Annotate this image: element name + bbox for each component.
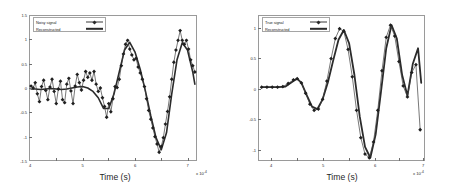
series-marker — [46, 98, 50, 102]
legend-entry-reconstructed: Reconstructed — [36, 26, 103, 32]
series-marker — [80, 88, 84, 92]
ytick-label: 1.5 — [14, 13, 27, 18]
series-marker — [82, 78, 86, 82]
series-marker — [33, 81, 37, 85]
series-marker — [94, 82, 98, 86]
figure-container: 1.5 1 0.5 0 -0.5 -1 -1.5 4 5 6 7 Time (s… — [0, 0, 453, 195]
xtick-label: 7 — [422, 163, 424, 168]
legend-entry-true-signal: True signal — [265, 19, 327, 25]
series-marker — [69, 89, 73, 93]
ytick-label: 0 — [14, 86, 27, 91]
series-marker — [75, 72, 79, 76]
series-marker — [276, 85, 280, 89]
legend-line-marker-sample-icon — [86, 19, 103, 25]
series-marker — [174, 48, 178, 52]
ytick-label: -1 — [14, 134, 27, 139]
xtick-label: 4 — [29, 163, 31, 168]
ytick-mark — [29, 64, 32, 65]
xtick-mark — [161, 158, 162, 161]
legend-right: True signal Reconstructed — [262, 17, 330, 32]
series-marker — [143, 85, 147, 89]
series-marker — [157, 150, 161, 154]
series-marker — [180, 38, 184, 42]
ytick-label: -0.5 — [14, 110, 27, 115]
series-marker — [67, 76, 71, 80]
legend-thick-line-sample-icon — [86, 26, 103, 32]
plot-curves-left — [30, 16, 198, 162]
series-marker — [59, 79, 63, 83]
legend-label: Noisy signal — [36, 20, 84, 25]
xtick-mark — [271, 158, 272, 161]
series-marker — [270, 85, 274, 89]
legend-label: True signal — [265, 20, 308, 25]
series-marker — [96, 90, 100, 94]
series-marker — [84, 70, 88, 74]
ytick-mark — [29, 39, 32, 40]
legend-label: Reconstructed — [265, 27, 308, 32]
xtick-mark — [56, 158, 57, 161]
xaxis-exponent-right: x 10-4 — [413, 170, 424, 176]
xaxis-label-left: Time (s) — [60, 172, 170, 182]
series-marker — [90, 78, 94, 82]
ytick-mark — [258, 119, 261, 120]
ytick-label: 1 — [243, 26, 256, 31]
series-marker — [418, 128, 422, 132]
plot-axes-right — [258, 15, 425, 161]
diamond-marker-icon — [92, 20, 96, 24]
series-line-reconstructed — [262, 25, 422, 158]
series-marker — [71, 102, 75, 106]
series-marker — [176, 38, 180, 42]
series-line-true-signal — [262, 25, 421, 158]
plot-panel-right: 1 0.5 0 -0.5 -1 4 5 6 7 Time (s) x 10-4 … — [227, 0, 453, 195]
xtick-label: 5 — [81, 163, 83, 168]
ytick-label: -0.5 — [243, 117, 256, 122]
ytick-mark — [29, 112, 32, 113]
xaxis-exponent-left: x 10-4 — [196, 170, 207, 176]
xtick-label: 7 — [186, 163, 188, 168]
ytick-mark — [258, 89, 261, 90]
series-marker — [265, 85, 269, 89]
xaxis-label-right: Time (s) — [287, 172, 397, 182]
ytick-mark — [258, 150, 261, 151]
ytick-label: 0.5 — [14, 61, 27, 66]
xtick-mark — [297, 158, 298, 161]
legend-label: Reconstructed — [36, 27, 84, 32]
series-marker — [98, 86, 102, 90]
ytick-mark — [29, 137, 32, 138]
series-marker — [35, 92, 39, 96]
xtick-mark — [323, 158, 324, 161]
xtick-mark — [108, 158, 109, 161]
series-marker — [172, 60, 176, 64]
series-marker — [65, 82, 69, 86]
series-marker — [126, 38, 130, 42]
ytick-label: 0.5 — [243, 56, 256, 61]
xtick-mark — [375, 158, 376, 161]
series-marker — [42, 78, 46, 82]
xtick-mark — [399, 158, 400, 161]
series-marker — [185, 38, 189, 42]
ytick-mark — [29, 88, 32, 89]
legend-thick-line-sample-icon — [310, 26, 327, 32]
series-marker — [86, 75, 90, 79]
ytick-label: -1 — [243, 147, 256, 152]
plot-axes-left — [29, 15, 197, 161]
series-marker — [338, 27, 342, 31]
xtick-mark — [135, 158, 136, 161]
legend-line — [310, 28, 327, 30]
legend-line — [86, 28, 103, 30]
plot-curves-right — [259, 16, 426, 162]
ytick-label: -1.5 — [14, 159, 27, 164]
exponent-power: -4 — [204, 170, 207, 174]
legend-entry-reconstructed: Reconstructed — [265, 26, 327, 32]
xtick-mark — [188, 158, 189, 161]
xtick-label: 5 — [322, 163, 324, 168]
ytick-mark — [258, 28, 261, 29]
series-marker — [333, 37, 337, 41]
legend-left: Noisy signal Reconstructed — [33, 17, 106, 32]
xtick-mark — [349, 158, 350, 161]
series-marker — [77, 81, 81, 85]
series-marker — [52, 90, 56, 94]
series-marker — [122, 52, 126, 56]
xtick-label: 4 — [270, 163, 272, 168]
plot-panel-left: 1.5 1 0.5 0 -0.5 -1 -1.5 4 5 6 7 Time (s… — [0, 0, 226, 195]
